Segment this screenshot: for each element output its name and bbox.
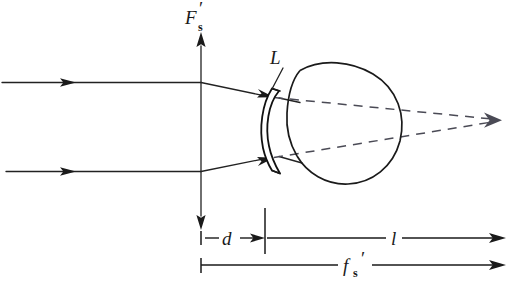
dashed-ray-upper xyxy=(274,98,492,120)
focal-plane-axis xyxy=(196,32,205,230)
lens-leader-line xyxy=(272,68,283,89)
eye-cornea xyxy=(287,71,300,157)
focal-point-label: F ′ s xyxy=(184,0,203,34)
axis-arrow-down xyxy=(196,215,205,230)
convergence-arrowhead xyxy=(484,113,502,128)
lens-label: L xyxy=(269,47,281,68)
dim-l-label: l xyxy=(391,228,396,249)
dim-fs-label-subscript: s xyxy=(353,266,358,280)
dim-fs-label-base: f xyxy=(343,255,351,276)
dimension-row-lower: f s ′ xyxy=(201,248,506,280)
ray-upper-refracted xyxy=(201,83,268,97)
dashed-construction-rays xyxy=(274,98,502,158)
ray-lower-refracted xyxy=(201,158,268,172)
eye-globe xyxy=(287,63,402,184)
focal-point-label-subscript: s xyxy=(198,20,203,34)
focal-point-label-prime: ′ xyxy=(199,0,203,19)
optical-diagram-figure: F ′ s L d l f xyxy=(0,0,513,294)
incoming-rays xyxy=(2,78,201,176)
dim-d-label: d xyxy=(222,228,232,249)
dashed-ray-lower xyxy=(274,122,492,158)
focal-point-label-base: F xyxy=(184,7,197,28)
dimension-row-upper: d l xyxy=(201,208,506,254)
diagram-canvas: F ′ s L d l f xyxy=(0,0,513,294)
dim-fs-label-prime: ′ xyxy=(361,248,365,269)
axis-arrow-up xyxy=(196,32,205,47)
